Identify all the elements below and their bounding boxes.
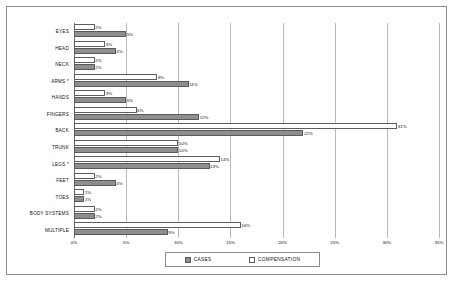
category-row: FEET2%4% <box>74 172 439 189</box>
x-axis: 0%5%10%15%20%25%30%35% <box>74 238 439 250</box>
bar-value-label: 2% <box>95 58 101 63</box>
bar-value-label: 2% <box>95 213 101 218</box>
bar-cases: 5% <box>74 97 126 103</box>
x-tick-label: 15% <box>226 240 235 245</box>
x-tick-label: 10% <box>174 240 183 245</box>
legend-label: COMPENSATION <box>258 257 300 262</box>
category-row: LEGS *14%13% <box>74 155 439 172</box>
bar-cases: 12% <box>74 114 199 120</box>
bar-value-label: 5% <box>127 32 133 37</box>
category-row: TRUNK10%10% <box>74 139 439 156</box>
category-label: TOES <box>56 194 69 199</box>
legend-label: CASES <box>194 257 212 262</box>
bar-comp: 2% <box>74 206 95 212</box>
bar-cases: 9% <box>74 229 168 235</box>
bar-cases: 10% <box>74 147 178 153</box>
gridline <box>439 23 440 238</box>
bar-value-label: 2% <box>95 206 101 211</box>
bar-cases: 4% <box>74 180 116 186</box>
category-row: BACK31%22% <box>74 122 439 139</box>
category-label: BACK <box>55 128 69 133</box>
x-tick-label: 30% <box>382 240 391 245</box>
x-tick-label: 5% <box>123 240 129 245</box>
bar-value-label: 10% <box>179 140 188 145</box>
bar-cases: 4% <box>74 48 116 54</box>
category-label: MULTIPLE <box>45 227 69 232</box>
bar-comp: 3% <box>74 41 105 47</box>
category-label: FINGERS <box>47 111 69 116</box>
category-label: TRUNK <box>52 145 69 150</box>
bar-comp: 2% <box>74 173 95 179</box>
bar-cases: 2% <box>74 64 95 70</box>
bar-value-label: 13% <box>210 164 219 169</box>
bar-comp: 31% <box>74 123 397 129</box>
bar-comp: 14% <box>74 156 220 162</box>
bar-value-label: 5% <box>127 98 133 103</box>
bar-cases: 11% <box>74 81 189 87</box>
bar-value-label: 14% <box>221 157 230 162</box>
category-label: FEET <box>56 178 69 183</box>
bar-value-label: 1% <box>85 190 91 195</box>
category-row: TOES1%1% <box>74 188 439 205</box>
bar-value-label: 1% <box>85 197 91 202</box>
category-row: BODY SYSTEMS2%2% <box>74 205 439 222</box>
category-label: LEGS * <box>52 161 69 166</box>
bar-value-label: 4% <box>116 48 122 53</box>
plot-area: EYES2%5%HEAD3%4%NECK2%2%ARMS *8%11%HANDS… <box>74 23 439 238</box>
bar-comp: 1% <box>74 189 84 195</box>
bar-value-label: 3% <box>106 41 112 46</box>
bar-value-label: 8% <box>158 74 164 79</box>
bar-value-label: 10% <box>179 147 188 152</box>
category-row: EYES2%5% <box>74 23 439 40</box>
legend-entry: CASES <box>185 257 212 263</box>
chart-legend: CASESCOMPENSATION <box>165 252 320 267</box>
bar-value-label: 31% <box>398 124 407 129</box>
bar-comp: 2% <box>74 57 95 63</box>
category-label: HANDS <box>52 95 69 100</box>
category-row: ARMS *8%11% <box>74 73 439 90</box>
bar-cases: 5% <box>74 31 126 37</box>
bar-value-label: 11% <box>189 81 197 86</box>
bar-comp: 16% <box>74 222 241 228</box>
bar-cases: 1% <box>74 196 84 202</box>
bar-value-label: 6% <box>137 107 143 112</box>
category-label: HEAD <box>55 45 69 50</box>
category-label: NECK <box>55 62 69 67</box>
category-label: BODY SYSTEMS <box>30 211 69 216</box>
category-row: FINGERS6%12% <box>74 106 439 123</box>
category-row: HANDS3%5% <box>74 89 439 106</box>
category-row: HEAD3%4% <box>74 40 439 57</box>
category-row: MULTIPLE16%9% <box>74 221 439 238</box>
legend-swatch-comp <box>249 257 255 263</box>
bar-value-label: 2% <box>95 65 101 70</box>
x-tick-label: 0% <box>71 240 77 245</box>
bar-value-label: 3% <box>106 91 112 96</box>
bar-comp: 10% <box>74 140 178 146</box>
x-tick-label: 35% <box>435 240 444 245</box>
bar-comp: 6% <box>74 107 137 113</box>
category-label: EYES <box>56 29 69 34</box>
bar-comp: 3% <box>74 90 105 96</box>
bar-value-label: 4% <box>116 180 122 185</box>
x-tick-label: 25% <box>330 240 339 245</box>
bar-cases: 13% <box>74 163 210 169</box>
bar-value-label: 2% <box>95 173 101 178</box>
bar-cases: 22% <box>74 130 303 136</box>
bar-value-label: 9% <box>168 230 174 235</box>
category-label: ARMS * <box>51 78 69 83</box>
bar-comp: 2% <box>74 24 95 30</box>
chart-frame: EYES2%5%HEAD3%4%NECK2%2%ARMS *8%11%HANDS… <box>6 6 447 275</box>
legend-swatch-cases <box>185 257 191 263</box>
bar-value-label: 12% <box>200 114 209 119</box>
bar-value-label: 2% <box>95 25 101 30</box>
legend-entry: COMPENSATION <box>249 257 300 263</box>
bar-comp: 8% <box>74 74 157 80</box>
category-row: NECK2%2% <box>74 56 439 73</box>
bar-value-label: 16% <box>241 223 250 228</box>
bar-cases: 2% <box>74 213 95 219</box>
bar-value-label: 22% <box>304 131 313 136</box>
x-tick-label: 20% <box>278 240 287 245</box>
